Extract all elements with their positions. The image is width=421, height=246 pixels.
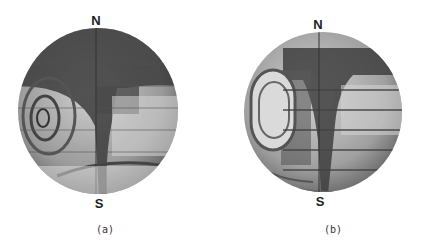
sphere-photo-b [243,30,405,194]
sphere-image-b [243,30,405,194]
caption-b: (b) [324,225,342,235]
sphere-photo-a [17,26,181,196]
panel-b: N [210,0,420,246]
panel-a: N [0,0,210,246]
south-label-b: S [314,195,326,208]
south-label-a: S [93,197,105,210]
sphere-image-a [17,26,181,196]
caption-a: (a) [96,225,114,235]
